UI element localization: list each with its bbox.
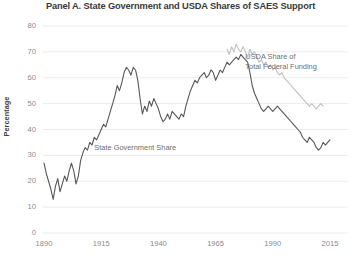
series-label-state-government-share: State Government Share: [94, 143, 176, 153]
x-tick-label: 1890: [24, 239, 64, 248]
y-tick-label: 50: [14, 99, 36, 108]
x-tick-label: 1990: [253, 239, 293, 248]
y-tick-label: 10: [14, 202, 36, 211]
y-tick-label: 40: [14, 125, 36, 134]
y-tick-label: 60: [14, 73, 36, 82]
y-tick-label: 80: [14, 21, 36, 30]
series-label-usda-share: USDA Share of Total Federal Funding: [245, 52, 316, 71]
y-tick-label: 70: [14, 47, 36, 56]
y-tick-label: 0: [14, 228, 36, 237]
x-tick-label: 1965: [196, 239, 236, 248]
y-tick-label: 20: [14, 176, 36, 185]
series-line-state-government-share: [44, 54, 330, 199]
x-tick-label: 1940: [138, 239, 178, 248]
y-tick-label: 30: [14, 150, 36, 159]
x-tick-label: 1915: [81, 239, 121, 248]
plot-area: [0, 0, 361, 267]
chart-panel-a: Panel A. State Government and USDA Share…: [0, 0, 361, 267]
x-tick-label: 2015: [310, 239, 350, 248]
